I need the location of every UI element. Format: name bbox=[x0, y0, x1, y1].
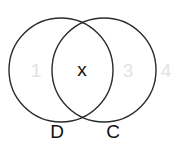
region-only-d-label: 1 bbox=[31, 60, 42, 81]
venn-diagram: 1 x 3 4 D C bbox=[0, 0, 178, 143]
set-d-circle bbox=[9, 18, 113, 122]
set-d-label: D bbox=[50, 121, 64, 142]
region-only-c-label: 3 bbox=[123, 60, 134, 81]
region-outside-label: 4 bbox=[161, 60, 172, 81]
set-c-circle bbox=[52, 18, 156, 122]
region-intersection-label: x bbox=[77, 59, 87, 80]
set-c-label: C bbox=[106, 121, 120, 142]
